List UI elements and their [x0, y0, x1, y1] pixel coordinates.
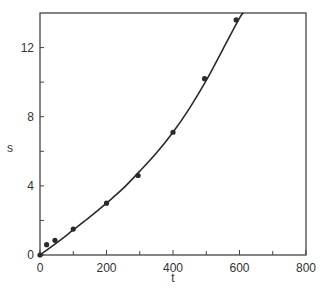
data-point: [71, 226, 76, 231]
fitted-curve: [40, 13, 243, 255]
x-tick-labels: 0200400600800: [37, 261, 317, 275]
y-tick-label: 4: [27, 179, 34, 193]
data-point: [234, 17, 239, 22]
data-point: [44, 242, 49, 247]
x-tick-label: 200: [96, 261, 116, 275]
data-point: [104, 201, 109, 206]
y-axis-label: s: [7, 141, 13, 155]
data-point: [202, 76, 207, 81]
data-point: [170, 130, 175, 135]
data-point: [37, 252, 42, 257]
x-tick-label: 600: [229, 261, 249, 275]
y-tick-labels: 04812: [21, 41, 35, 262]
chart-canvas: 0200400600800 04812 t s: [0, 0, 327, 296]
x-tick-label: 0: [37, 261, 44, 275]
data-point: [135, 173, 140, 178]
x-tick-label: 800: [296, 261, 316, 275]
y-tick-label: 12: [21, 41, 35, 55]
y-tick-label: 0: [27, 248, 34, 262]
y-tick-label: 8: [27, 110, 34, 124]
data-point: [52, 238, 57, 243]
data-points: [37, 17, 238, 257]
